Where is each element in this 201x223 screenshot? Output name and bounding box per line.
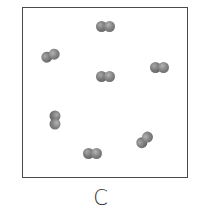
diatomic-molecule [150, 62, 170, 73]
atom-sphere [104, 71, 115, 82]
container-box [22, 7, 188, 178]
atom-sphere [104, 21, 115, 32]
diatomic-molecule [96, 21, 116, 32]
figure-label: C [0, 186, 201, 210]
diatomic-molecule [50, 110, 61, 130]
atom-sphere [158, 62, 169, 73]
atom-sphere [50, 118, 61, 129]
atom-sphere [91, 148, 102, 159]
diatomic-molecule [83, 148, 103, 159]
diatomic-molecule [96, 71, 116, 82]
